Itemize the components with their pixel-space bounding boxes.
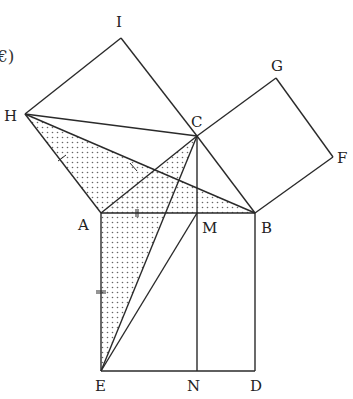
vertex-label-m: M	[202, 219, 217, 237]
vertex-label-c: C	[191, 113, 202, 131]
vertex-label-i: I	[116, 13, 122, 31]
vertex-label-d: D	[250, 377, 262, 395]
segment-cg	[197, 78, 276, 136]
shaded-triangles	[25, 114, 255, 371]
vertex-label-h: H	[4, 107, 17, 125]
segment-hi	[25, 38, 121, 114]
segment-ic	[121, 38, 197, 136]
vertex-label-b: B	[261, 219, 272, 237]
vertex-label-f: F	[337, 149, 347, 167]
segment-gf	[276, 78, 333, 157]
segment-fb	[255, 157, 333, 213]
cropped-caption-fragment: €)	[0, 46, 14, 66]
vertex-label-a: A	[77, 216, 89, 234]
vertex-label-e: E	[95, 377, 106, 395]
pythagorean-proof-diagram: ABCDEFGHIMN €)	[0, 0, 353, 399]
vertex-label-g: G	[271, 57, 283, 75]
vertex-label-n: N	[187, 377, 200, 395]
